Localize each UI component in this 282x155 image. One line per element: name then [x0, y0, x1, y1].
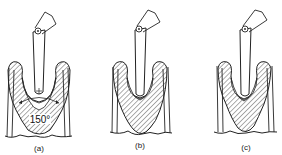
panel-b: (b): [110, 10, 172, 150]
angle-annotation: 150°: [30, 114, 51, 125]
panel-a: 150° (a): [5, 12, 72, 153]
diagram-canvas: 150° (a) (b) (c): [0, 0, 282, 155]
panel-label-a: (a): [34, 144, 44, 153]
panel-c: (c): [214, 10, 277, 152]
panel-label-c: (c): [241, 143, 251, 152]
figure: 150° (a) (b) (c): [0, 0, 282, 155]
panel-label-b: (b): [135, 141, 145, 150]
